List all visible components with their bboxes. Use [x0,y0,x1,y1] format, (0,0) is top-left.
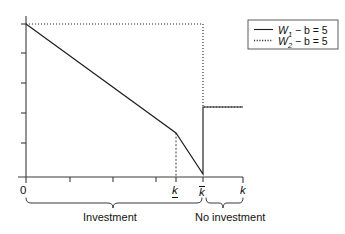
no-investment-label: No investment [195,212,265,223]
k-upper-glyph: k [199,186,205,199]
legend-w2-rest: − b = 5 [295,35,328,47]
k-lower-glyph: k [172,185,178,198]
investment-brace [26,198,202,208]
legend-entry-w2: W2 − b = 5 [278,36,328,50]
legend-w2-symbol: W [278,35,288,47]
x-axis-label-k-upper: k [199,186,205,199]
x-axis-label-k: k [240,185,246,197]
investment-label: Investment [83,212,137,223]
chart-figure: 0 k k k Investment No investment W1 − b … [0,0,345,234]
legend-w2-subscript: 2 [288,41,292,50]
x-axis-label-origin: 0 [20,185,26,197]
series-line-w2 [26,24,243,107]
no-investment-brace [206,198,243,208]
x-axis-label-k-lower: k [172,185,178,198]
series-line-w1 [26,24,243,174]
